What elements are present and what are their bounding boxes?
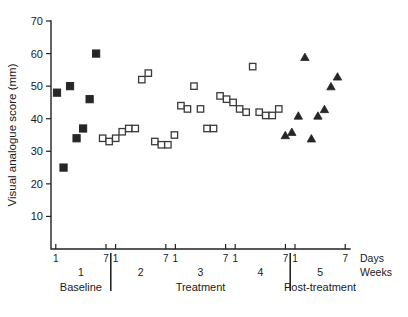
- axis-labels: BaselineTreatmentPost-treatmentDaysWeeks…: [6, 63, 392, 293]
- x-week-label: 3: [198, 266, 204, 278]
- x-day-label-start: 1: [232, 253, 238, 264]
- x-day-label-end: 7: [103, 253, 109, 264]
- scatter-plot: 10203040506070 171172173174175 BaselineT…: [0, 0, 408, 317]
- data-point-filled-square: [79, 125, 86, 132]
- y-tick-label: 10: [31, 210, 43, 222]
- y-tick-label: 20: [31, 178, 43, 190]
- data-point-open-square: [139, 76, 145, 82]
- data-point-filled-triangle: [294, 112, 302, 119]
- data-point-filled-square: [60, 164, 67, 171]
- data-point-open-square: [184, 106, 190, 112]
- x-day-label-end: 7: [163, 253, 169, 264]
- x-day-label-start: 1: [53, 253, 59, 264]
- x-day-label-start: 1: [173, 253, 179, 264]
- x-day-label-end: 7: [283, 253, 289, 264]
- data-point-open-square: [263, 112, 269, 118]
- data-point-open-square: [145, 70, 151, 76]
- data-point-open-square: [256, 109, 262, 115]
- data-point-filled-triangle: [327, 82, 335, 89]
- x-week-label: 2: [138, 266, 144, 278]
- x-day-label-end: 7: [223, 253, 229, 264]
- phase-label: Baseline: [60, 281, 102, 293]
- data-point-open-square: [191, 83, 197, 89]
- y-tick-label: 70: [31, 15, 43, 27]
- data-point-open-square: [197, 106, 203, 112]
- data-point-open-square: [249, 63, 255, 69]
- data-point-open-square: [269, 112, 275, 118]
- data-point-open-square: [158, 142, 164, 148]
- data-point-open-square: [171, 132, 177, 138]
- x-day-label-start: 1: [292, 253, 298, 264]
- data-point-open-square: [217, 93, 223, 99]
- phase-label: Treatment: [176, 281, 226, 293]
- x-week-label: 1: [78, 266, 84, 278]
- x-week-label: 5: [317, 266, 323, 278]
- x-day-label-start: 1: [113, 253, 119, 264]
- y-axis-ticks: 10203040506070: [31, 15, 51, 222]
- data-point-open-square: [119, 129, 125, 135]
- phase-label: Post-treatment: [284, 281, 356, 293]
- data-point-open-square: [204, 125, 210, 131]
- y-tick-label: 40: [31, 113, 43, 125]
- data-point-open-square: [152, 138, 158, 144]
- data-point-open-square: [165, 142, 171, 148]
- data-point-open-square: [106, 138, 112, 144]
- y-tick-label: 30: [31, 145, 43, 157]
- data-point-open-square: [113, 135, 119, 141]
- data-point-open-square: [236, 106, 242, 112]
- data-point-open-square: [243, 109, 249, 115]
- data-point-filled-square: [93, 50, 100, 57]
- data-points: [53, 50, 341, 171]
- data-point-open-square: [132, 125, 138, 131]
- data-point-filled-triangle: [288, 128, 296, 135]
- y-axis-title: Visual analogue score (mm): [6, 63, 18, 206]
- data-point-open-square: [126, 125, 132, 131]
- data-point-open-square: [178, 102, 184, 108]
- chart-figure: 10203040506070 171172173174175 BaselineT…: [0, 0, 408, 317]
- data-point-filled-square: [53, 89, 60, 96]
- data-point-open-square: [230, 99, 236, 105]
- x-week-label: 4: [257, 266, 263, 278]
- x-unit-days-label: Days: [360, 252, 384, 264]
- data-point-open-square: [210, 125, 216, 131]
- x-day-label-end: 7: [342, 253, 348, 264]
- data-point-open-square: [276, 106, 282, 112]
- data-point-filled-square: [73, 135, 80, 142]
- y-tick-label: 60: [31, 48, 43, 60]
- data-point-open-square: [99, 135, 105, 141]
- data-point-filled-triangle: [333, 73, 341, 80]
- data-point-open-square: [223, 96, 229, 102]
- y-tick-label: 50: [31, 80, 43, 92]
- data-point-filled-triangle: [320, 105, 328, 112]
- x-unit-weeks-label: Weeks: [360, 266, 392, 278]
- data-point-filled-triangle: [301, 53, 309, 60]
- data-point-filled-square: [86, 96, 93, 103]
- data-point-filled-square: [66, 83, 73, 90]
- data-point-filled-triangle: [307, 135, 315, 142]
